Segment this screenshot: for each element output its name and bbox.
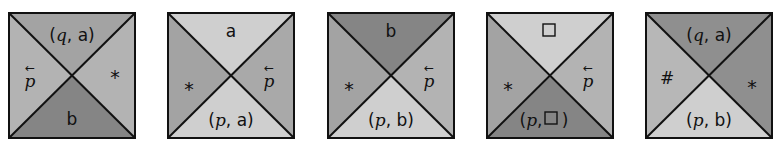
tile-2: a p ← (p, a) * <box>167 12 295 139</box>
tile-bottom-label: b <box>67 109 78 129</box>
tile-bottom-label: (p, b) <box>368 110 414 130</box>
tile-bottom-label-close: ) <box>562 110 569 130</box>
tile-top-label: a <box>226 21 236 41</box>
wang-tile-diagram: (q, a) * (p, b) # <box>645 12 773 139</box>
left-arrow-icon: ← <box>424 61 434 75</box>
tile-left-label: * <box>344 78 354 100</box>
wang-tile-diagram: a p ← (p, a) * <box>167 12 295 139</box>
tile-right-label: * <box>747 76 757 98</box>
wang-tile-diagram: b p ← (p, b) * <box>327 12 455 139</box>
wang-tile-diagram: (q, a) * b p ← <box>8 12 136 139</box>
tile-4: p ← (p, ) * <box>486 12 614 139</box>
tile-top-label: (q, a) <box>49 25 94 45</box>
left-arrow-icon: ← <box>583 61 593 75</box>
tile-left-label: * <box>184 78 194 100</box>
tile-bottom-label: (p, b) <box>686 110 732 130</box>
tile-bottom-label: (p, a) <box>208 110 253 130</box>
wang-tile-diagram: p ← (p, ) * <box>486 12 614 139</box>
tile-left-label: # <box>660 68 674 88</box>
tile-right-label: * <box>110 66 120 88</box>
left-arrow-icon: ← <box>25 61 35 75</box>
tile-3: b p ← (p, b) * <box>327 12 455 139</box>
tile-bottom-label: (p, <box>520 110 543 130</box>
tile-top-label: b <box>386 21 397 41</box>
tile-left-label: * <box>503 78 513 100</box>
tile-1: (q, a) * b p ← <box>8 12 136 139</box>
tile-5: (q, a) * (p, b) # <box>645 12 773 139</box>
tile-top-label: (q, a) <box>686 25 731 45</box>
left-arrow-icon: ← <box>264 61 274 75</box>
